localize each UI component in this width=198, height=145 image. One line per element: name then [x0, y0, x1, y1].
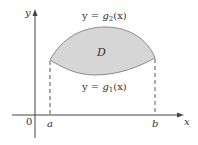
y-axis-label: y [25, 8, 31, 18]
x-axis-arrow-icon [177, 113, 184, 118]
region-label: D [97, 47, 106, 58]
lower-curve-prefix: y = [82, 81, 102, 92]
upper-curve-arg: (x) [113, 10, 126, 21]
y-axis-arrow-icon [33, 9, 38, 16]
upper-curve-label: y = g2(x) [82, 11, 127, 23]
upper-curve-prefix: y = [82, 10, 102, 21]
lower-curve-arg: (x) [113, 81, 126, 92]
origin-label: 0 [26, 117, 32, 127]
x-axis-label: x [184, 117, 190, 127]
lower-curve-label: y = g1(x) [82, 82, 127, 94]
tick-label-a: a [47, 119, 53, 129]
tick-label-b: b [152, 119, 158, 129]
region-diagram: y 0 x a b D y = g2(x) y = g1(x) [0, 0, 198, 145]
